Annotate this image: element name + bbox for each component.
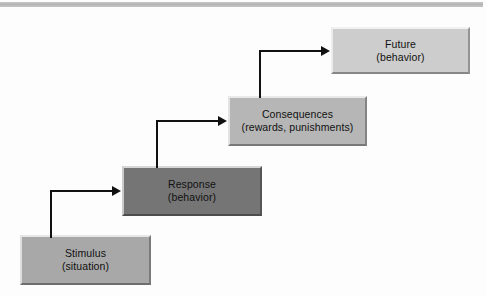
node-stimulus-subtitle: (situation)	[62, 260, 109, 273]
node-response-title: Response	[168, 178, 216, 191]
connector-consequences-to-future	[259, 50, 333, 98]
arrowhead-icon	[218, 116, 227, 126]
node-response: Response (behavior)	[122, 166, 262, 216]
connector-horizontal-segment	[50, 190, 112, 192]
node-stimulus-title: Stimulus	[65, 247, 106, 260]
arrowhead-icon	[321, 46, 330, 56]
node-stimulus: Stimulus (situation)	[20, 235, 151, 285]
connector-stimulus-to-response	[50, 190, 124, 238]
node-future-title: Future	[385, 38, 416, 51]
node-consequences-subtitle: (rewards, punishments)	[242, 121, 354, 134]
connector-vertical-segment	[156, 120, 158, 168]
arrowhead-icon	[112, 186, 121, 196]
node-future: Future (behavior)	[331, 27, 470, 74]
header-rule	[0, 2, 483, 7]
connector-vertical-segment	[50, 190, 52, 238]
behaviorism-flow-diagram: Future (behavior) Consequences (rewards,…	[0, 0, 487, 296]
node-consequences-title: Consequences	[262, 108, 333, 121]
node-response-subtitle: (behavior)	[168, 191, 216, 204]
node-future-subtitle: (behavior)	[376, 51, 424, 64]
connector-response-to-consequences	[156, 120, 230, 168]
connector-vertical-segment	[259, 50, 261, 98]
node-consequences: Consequences (rewards, punishments)	[228, 96, 367, 146]
connector-horizontal-segment	[259, 50, 321, 52]
connector-horizontal-segment	[156, 120, 218, 122]
